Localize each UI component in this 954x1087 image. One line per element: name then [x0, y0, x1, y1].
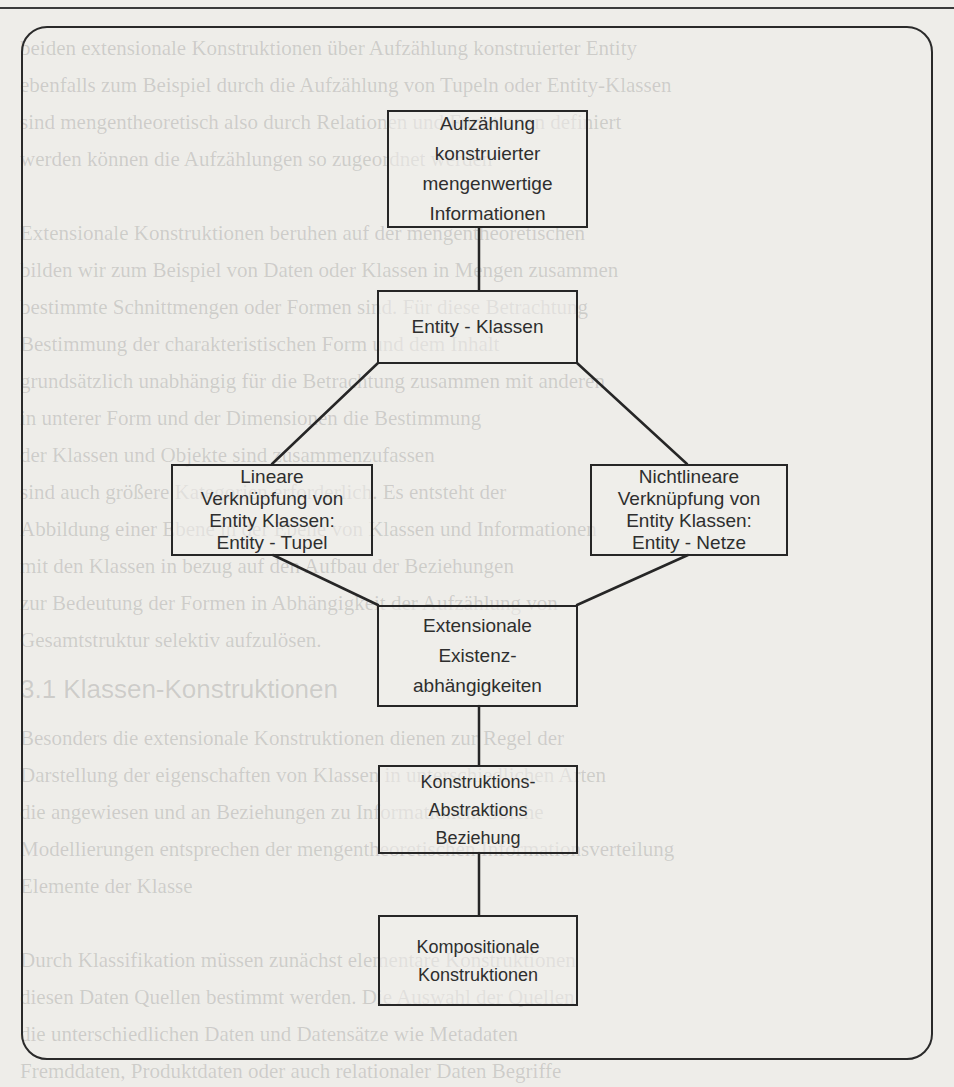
- node-label-line: Entity Klassen:: [209, 510, 335, 532]
- node-label-line: Extensionale: [423, 611, 532, 641]
- node-label-line: Beziehung: [435, 824, 520, 852]
- node-label-line: Lineare: [240, 466, 303, 488]
- node-label-line: Informationen: [429, 199, 545, 229]
- node-label-line: Aufzählung: [440, 109, 535, 139]
- node-label-line: Entity - Tupel: [217, 532, 328, 554]
- node-label-line: mengenwertige: [423, 169, 553, 199]
- node-label-line: Kompositionale: [416, 933, 539, 961]
- edge-lineare-extensionale: [273, 555, 378, 605]
- node-label-line: Konstruktions-: [420, 768, 535, 796]
- node-label-line: Entity - Klassen: [412, 312, 544, 342]
- node-lineare: Lineare Verknüpfung von Entity Klassen: …: [171, 464, 373, 556]
- node-label-line: Entity - Netze: [632, 532, 746, 554]
- node-label-line: Konstruktionen: [418, 961, 538, 989]
- node-aufzaehlung: Aufzählung konstruierter mengenwertige I…: [387, 110, 588, 228]
- node-label-line: Nichtlineare: [639, 466, 739, 488]
- node-label-line: konstruierter: [435, 139, 541, 169]
- edge-entity-klassen-nichtlineare: [577, 363, 687, 464]
- node-label-line: Entity Klassen:: [626, 510, 752, 532]
- node-label-line: Verknüpfung von: [618, 488, 761, 510]
- edge-nichtlineare-extensionale: [577, 555, 688, 605]
- node-konstruktions: Konstruktions- Abstraktions Beziehung: [378, 765, 578, 854]
- node-label-line: Abstraktions: [428, 796, 527, 824]
- node-kompositionale: Kompositionale Konstruktionen: [378, 915, 578, 1006]
- node-extensionale: Extensionale Existenz- abhängigkeiten: [377, 605, 578, 707]
- node-nichtlineare: Nichtlineare Verknüpfung von Entity Klas…: [590, 464, 788, 556]
- node-label-line: Existenz-: [438, 641, 516, 671]
- node-label-line: abhängigkeiten: [413, 671, 542, 701]
- node-entity-klassen: Entity - Klassen: [377, 290, 578, 364]
- edge-entity-klassen-lineare: [272, 363, 378, 464]
- node-label-line: Verknüpfung von: [201, 488, 344, 510]
